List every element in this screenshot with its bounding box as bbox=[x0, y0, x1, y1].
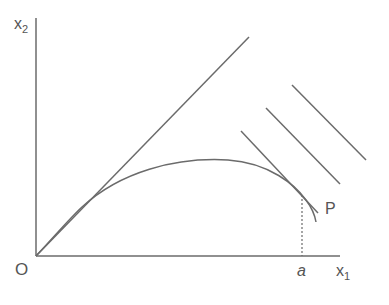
tick-a-label: a bbox=[297, 262, 306, 279]
tangent-line-1 bbox=[241, 131, 318, 213]
point-p-label: P bbox=[325, 200, 336, 217]
y-axis-label: x2 bbox=[14, 15, 28, 35]
curve bbox=[36, 160, 316, 256]
x-axis-label: x1 bbox=[336, 262, 350, 282]
parallel-line-2 bbox=[266, 108, 340, 184]
ray-45deg bbox=[36, 37, 249, 256]
diagram-canvas: x2 O a x1 P bbox=[0, 0, 389, 305]
parallel-line-3 bbox=[292, 85, 366, 160]
origin-label: O bbox=[15, 260, 28, 279]
